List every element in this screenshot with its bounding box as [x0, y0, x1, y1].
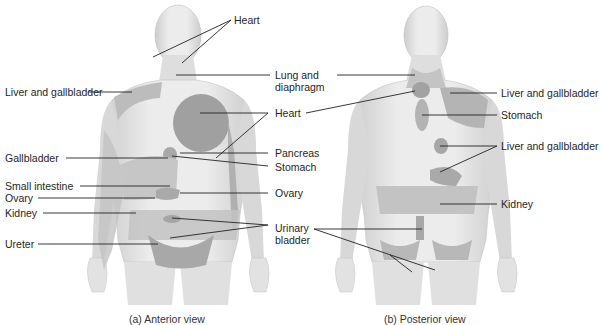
label-small-intestine: Small intestine — [5, 180, 73, 192]
label-gallbladder: Gallbladder — [5, 152, 59, 164]
label-posterior-liver-upper: Liver and gallbladder — [501, 87, 598, 99]
label-liver-gallbladder: Liver and gallbladder — [5, 86, 102, 98]
label-lung-line1: Lung and — [275, 69, 319, 81]
label-kidney: Kidney — [5, 207, 37, 219]
label-stomach: Stomach — [275, 161, 316, 173]
label-lung-line2: diaphragm — [275, 81, 325, 93]
label-lung-diaphragm: Lung and diaphragm — [275, 69, 325, 93]
label-urinary-line1: Urinary — [275, 222, 309, 234]
label-heart-top: Heart — [234, 14, 260, 26]
label-pancreas: Pancreas — [275, 147, 319, 159]
label-posterior-kidney: Kidney — [501, 198, 533, 210]
region-kidney-back — [376, 186, 478, 214]
region-heart — [173, 94, 229, 152]
caption-anterior: (a) Anterior view — [129, 313, 205, 325]
label-ovary-right: Ovary — [275, 187, 303, 199]
label-urinary-line2: bladder — [275, 234, 310, 246]
referred-pain-figure: Liver and gallbladder Gallbladder Small … — [0, 0, 601, 325]
posterior-body — [335, 6, 517, 305]
label-urinary-bladder: Urinary bladder — [275, 222, 310, 246]
label-ureter: Ureter — [5, 238, 34, 250]
region-heart-back — [412, 82, 430, 98]
label-posterior-liver-lower: Liver and gallbladder — [501, 140, 598, 152]
region-ovary — [156, 188, 180, 201]
caption-posterior: (b) Posterior view — [384, 313, 466, 325]
label-ovary: Ovary — [5, 192, 33, 204]
anterior-body — [87, 5, 269, 305]
label-heart: Heart — [275, 107, 301, 119]
region-kidney — [128, 210, 240, 240]
label-posterior-stomach: Stomach — [501, 109, 542, 121]
